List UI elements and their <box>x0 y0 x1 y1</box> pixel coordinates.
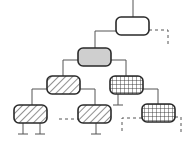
ground-terminal-icon <box>91 123 101 134</box>
tree-node-gray <box>78 48 111 66</box>
connector-line <box>63 60 78 76</box>
connector-line <box>95 31 116 48</box>
connector-line <box>80 89 95 105</box>
dashed-connector-line <box>175 117 181 134</box>
dashed-connector-line <box>149 30 168 46</box>
connector-line <box>32 89 47 105</box>
tree-node-root <box>116 17 149 35</box>
tree-node-hatch-bottom-mid <box>78 105 111 123</box>
tree-diagram <box>0 0 196 148</box>
dashed-connector-line <box>122 118 142 134</box>
ground-terminal-icon <box>18 123 28 134</box>
tree-node-grid-bottom-right <box>142 104 175 122</box>
ground-terminal-icon <box>113 94 123 105</box>
tree-node-grid-mid-right <box>110 76 143 94</box>
ground-terminal-icon <box>35 123 45 134</box>
connector-line <box>111 60 126 76</box>
tree-node-hatch-bottom-left <box>14 105 47 123</box>
tree-node-hatch-mid-left <box>47 76 80 94</box>
connector-line <box>143 89 158 104</box>
